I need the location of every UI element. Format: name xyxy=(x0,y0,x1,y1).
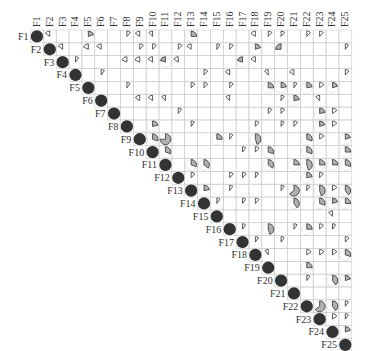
diagonal-circle xyxy=(249,249,261,261)
grid-cell xyxy=(262,197,275,210)
grid-cell xyxy=(223,120,236,133)
grid-cell xyxy=(159,69,172,82)
correlation-pie xyxy=(191,172,195,177)
correlation-pie xyxy=(340,147,351,158)
diagonal-circle xyxy=(44,43,56,55)
correlation-pie xyxy=(340,185,351,196)
diagonal-circle xyxy=(172,172,184,184)
grid-cell xyxy=(198,94,211,107)
grid-cell xyxy=(339,210,352,223)
column-label: F11 xyxy=(159,12,170,27)
grid-cell xyxy=(210,146,223,159)
correlation-pie xyxy=(345,44,348,49)
row-label: F17 xyxy=(219,237,235,248)
grid-cell xyxy=(275,146,288,159)
grid-cell xyxy=(172,133,185,146)
correlation-pie xyxy=(135,57,140,62)
correlation-pie xyxy=(230,185,233,190)
column-label: F10 xyxy=(147,11,158,27)
grid-cell xyxy=(56,30,69,43)
grid-cell xyxy=(326,171,339,184)
correlation-pie xyxy=(301,262,312,273)
correlation-pie xyxy=(281,31,285,36)
grid-cell xyxy=(146,81,159,94)
correlation-pie xyxy=(340,160,351,171)
correlation-pie xyxy=(75,57,78,62)
grid-cell xyxy=(108,81,121,94)
grid-cell xyxy=(275,56,288,69)
row-label: F19 xyxy=(244,262,260,273)
correlation-pie xyxy=(268,31,272,36)
grid-cell xyxy=(300,197,313,210)
diagonal-circle xyxy=(211,210,223,222)
grid-cell xyxy=(172,69,185,82)
grid-cell xyxy=(236,210,249,223)
correlation-pie xyxy=(332,185,336,190)
correlation-pie xyxy=(301,82,312,93)
correlation-pie xyxy=(329,211,333,216)
grid-cell xyxy=(262,43,275,56)
correlation-pie xyxy=(160,134,171,145)
correlation-pie xyxy=(217,198,220,203)
correlation-pie xyxy=(332,121,336,126)
grid-cell xyxy=(339,261,352,274)
grid-cell xyxy=(210,107,223,120)
grid-cell xyxy=(288,171,301,184)
column-label: F5 xyxy=(82,16,93,27)
grid-cell xyxy=(339,94,352,107)
diagonal-circle xyxy=(236,236,248,248)
grid-cell xyxy=(95,30,108,43)
correlation-pie xyxy=(83,44,88,49)
grid-cell xyxy=(300,236,313,249)
grid-cell xyxy=(275,197,288,210)
row-label: F7 xyxy=(95,108,106,119)
grid-cell xyxy=(262,56,275,69)
grid-cell xyxy=(120,69,133,82)
grid-cell xyxy=(249,94,262,107)
diagonal-circle xyxy=(159,159,171,171)
column-label: F13 xyxy=(185,11,196,27)
correlation-pie xyxy=(147,134,158,145)
grid-cell xyxy=(172,30,185,43)
column-label: F25 xyxy=(339,11,350,27)
correlation-pie xyxy=(314,108,325,119)
column-label: F21 xyxy=(288,11,299,27)
correlation-pie xyxy=(316,95,320,100)
correlation-pie xyxy=(148,95,152,100)
grid-cell xyxy=(249,210,262,223)
correlation-pie xyxy=(148,57,152,62)
correlation-pie xyxy=(320,82,324,87)
grid-cell xyxy=(185,133,198,146)
correlation-pie xyxy=(211,134,222,145)
correlation-pie xyxy=(187,44,191,49)
correlation-pie xyxy=(147,121,158,132)
grid-cell xyxy=(262,184,275,197)
grid-cell xyxy=(300,69,313,82)
grid-cell xyxy=(108,94,121,107)
grid-cell xyxy=(198,56,211,69)
correlation-pie xyxy=(314,121,325,132)
correlation-pie xyxy=(301,160,312,171)
grid-cell xyxy=(223,30,236,43)
diagonal-circle xyxy=(288,287,300,299)
column-label: F22 xyxy=(301,11,312,27)
correlation-pie xyxy=(345,70,349,75)
correlation-pie xyxy=(301,134,312,145)
correlation-pie xyxy=(255,121,259,126)
correlation-pie xyxy=(243,224,246,229)
grid-cell xyxy=(313,210,326,223)
grid-cell xyxy=(133,120,146,133)
grid-cell xyxy=(313,69,326,82)
grid-cell xyxy=(198,133,211,146)
correlation-pie xyxy=(217,44,220,49)
grid-cell xyxy=(95,81,108,94)
grid-cell xyxy=(339,30,352,43)
correlation-pie xyxy=(345,314,348,319)
correlation-pie xyxy=(340,198,351,209)
correlation-pie xyxy=(135,31,139,36)
correlation-pie xyxy=(178,108,181,113)
row-label: F25 xyxy=(321,339,337,350)
row-label: F5 xyxy=(69,82,80,93)
correlogram-chart: F1F2F3F4F5F6F7F8F9F10F11F12F13F14F15F16F… xyxy=(0,0,367,351)
correlation-pie xyxy=(281,108,285,113)
